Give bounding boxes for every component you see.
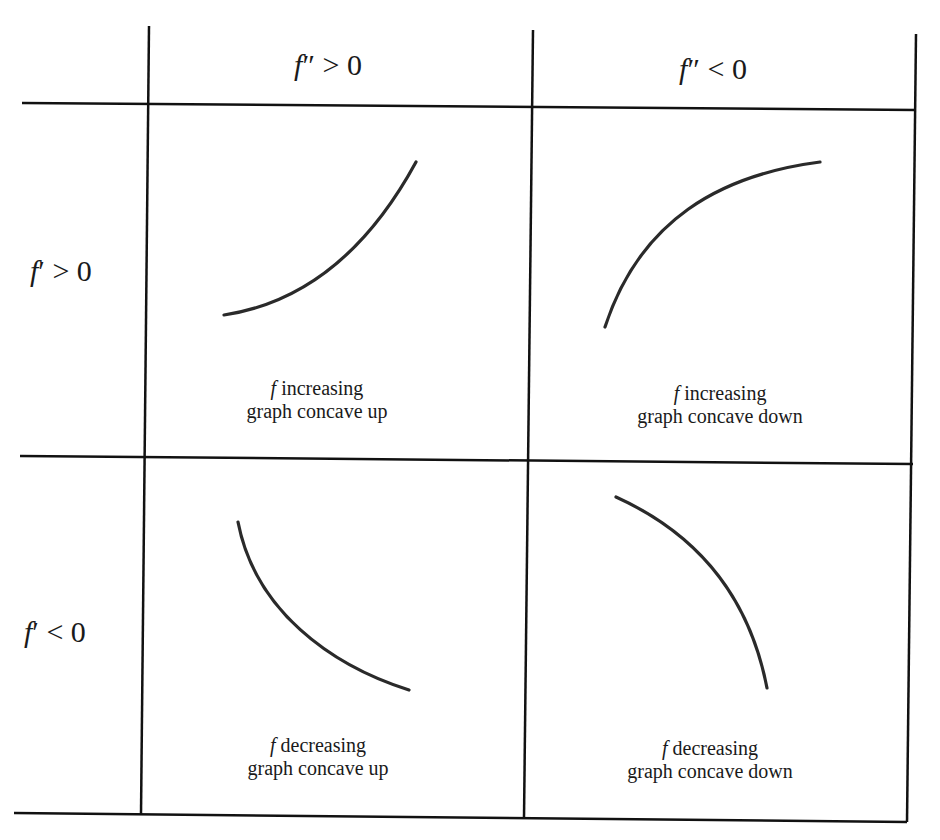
caption-line-1: f decreasing [247,734,388,757]
caption-text: increasing [679,382,766,404]
row-header-text: ′ < 0 [32,615,85,648]
right-border [907,34,916,822]
caption-text: decreasing [668,737,759,759]
curve-increasing-concave-up [224,162,416,315]
caption-line-2: graph concave down [637,405,803,428]
cell-caption-increasing-concave-down: f increasing graph concave down [637,382,803,428]
curve-decreasing-concave-down [616,497,767,688]
header-divider [22,103,916,110]
row-header-f1-negative: f′ < 0 [24,615,86,649]
curve-decreasing-concave-up [238,522,409,690]
caption-line-1: f increasing [246,377,387,400]
row-divider [20,456,913,464]
caption-line-1: f decreasing [627,737,793,760]
row-header-text: ′ > 0 [38,254,91,287]
caption-text: increasing [276,377,363,399]
column-header-text: ″ < 0 [687,52,746,85]
caption-line-1: f increasing [637,382,803,405]
column-header-f2-negative: f″ < 0 [679,52,747,86]
cell-caption-increasing-concave-up: f increasing graph concave up [246,377,387,423]
caption-line-2: graph concave up [246,400,387,423]
column-header-text: ″ > 0 [302,48,361,81]
column-divider [524,30,533,818]
curve-increasing-concave-down [605,162,820,327]
column-header-f2-positive: f″ > 0 [294,48,362,82]
bottom-border [14,813,907,822]
caption-line-2: graph concave up [247,757,388,780]
caption-line-2: graph concave down [627,760,793,783]
caption-text: decreasing [276,734,367,756]
cell-caption-decreasing-concave-down: f decreasing graph concave down [627,737,793,783]
row-header-f1-positive: f′ > 0 [30,254,92,288]
cell-caption-decreasing-concave-up: f decreasing graph concave up [247,734,388,780]
row-header-divider [141,26,149,814]
